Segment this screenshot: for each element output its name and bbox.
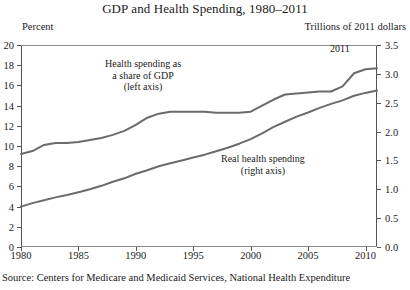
annotation-line: Real health spending (221, 153, 305, 165)
right-tick-label: 0.5 (385, 213, 398, 224)
annotation-real-spending: Real health spending (right axis) (221, 153, 305, 176)
annotation-end-year: 2011 (330, 43, 350, 55)
left-axis-caption: Percent (22, 21, 54, 32)
x-tick-label: 1985 (68, 250, 89, 261)
chart-container: GDP and Health Spending, 1980–2011 Perce… (0, 0, 410, 290)
chart-title: GDP and Health Spending, 1980–2011 (0, 1, 410, 17)
right-tick-label: 2.0 (385, 126, 398, 137)
left-tick-label: 18 (0, 60, 14, 71)
annotation-share-of-gdp: Health spending as a share of GDP (left … (105, 58, 181, 93)
left-tick-label: 12 (0, 120, 14, 131)
left-tick-label: 10 (0, 141, 14, 152)
right-tick-label: 3.0 (385, 68, 398, 79)
x-tick-label: 1995 (183, 250, 204, 261)
right-tick-label: 1.0 (385, 184, 398, 195)
annotation-line: (right axis) (221, 165, 305, 177)
left-tick-label: 8 (0, 161, 14, 172)
left-tick-label: 4 (0, 201, 14, 212)
series-lines (21, 45, 377, 247)
right-tick-label: 2.5 (385, 97, 398, 108)
right-axis-caption: Trillions of 2011 dollars (304, 21, 406, 32)
x-tick-label: 2010 (355, 250, 376, 261)
right-tick-label: 0.0 (385, 242, 398, 253)
annotation-line: (left axis) (105, 81, 181, 93)
right-tick (377, 160, 381, 161)
source-note: Source: Centers for Medicare and Medicai… (2, 272, 350, 283)
x-tick-label: 1980 (11, 250, 32, 261)
annotation-line: Health spending as (105, 58, 181, 70)
right-tick (377, 247, 381, 248)
x-tick-label: 2005 (298, 250, 319, 261)
left-tick-label: 2 (0, 221, 14, 232)
plot-area: 02468101214161820 0.00.51.01.52.02.53.03… (21, 45, 377, 247)
series-line (21, 68, 377, 154)
right-tick (377, 45, 381, 46)
right-tick (377, 218, 381, 219)
right-tick-label: 1.5 (385, 155, 398, 166)
left-tick-label: 20 (0, 40, 14, 51)
series-line (21, 91, 377, 207)
right-tick (377, 189, 381, 190)
right-tick-label: 3.5 (385, 40, 398, 51)
right-tick (377, 132, 381, 133)
x-tick-label: 1990 (125, 250, 146, 261)
x-tick-label: 2000 (240, 250, 261, 261)
right-tick (377, 103, 381, 104)
left-tick-label: 16 (0, 80, 14, 91)
right-tick (377, 74, 381, 75)
left-tick-label: 14 (0, 100, 14, 111)
annotation-line: a share of GDP (105, 70, 181, 82)
left-tick-label: 6 (0, 181, 14, 192)
